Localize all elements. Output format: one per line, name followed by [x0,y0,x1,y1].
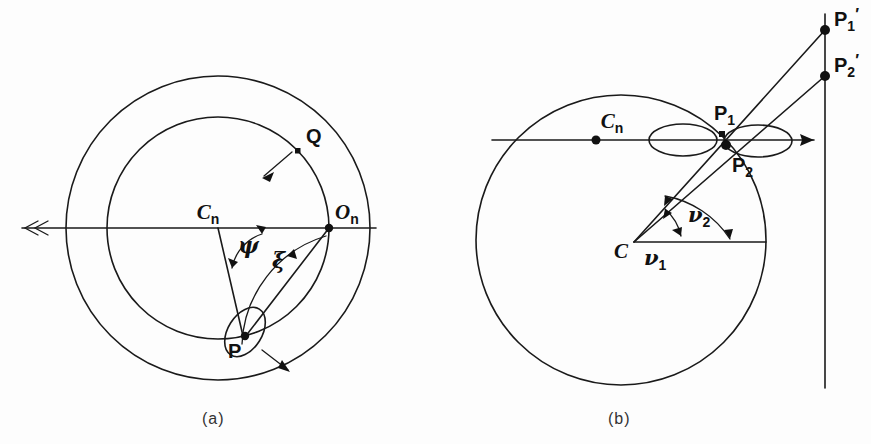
panel-a-caption: (a) [202,410,225,427]
label-p1-prime: P1′ [834,6,859,34]
ray-c-to-p1-prime [634,30,825,242]
point-p1-marker [719,131,725,137]
label-cn: Cn [197,200,220,227]
point-q-marker [295,148,301,154]
label-q: Q [306,125,322,147]
label-on: On [335,200,359,227]
panel-b-caption: (b) [608,410,631,427]
point-p-marker [241,332,249,340]
arrow-at-q-head [262,172,274,182]
label-angle-xi: ξ [272,247,286,273]
point-on-marker [325,224,333,232]
label-angle-nu1: ν1 [644,245,667,273]
arc-nu1-arrowhead-start [672,227,682,236]
label-angle-psi: ψ [238,232,260,258]
point-p2-marker [721,140,731,150]
panel-a-drawing: Cn On P Q ψ ξ (a) [0,0,436,444]
label-angle-nu2: ν2 [688,202,711,230]
arrow-at-q-shaft [264,152,292,176]
point-cn-marker [592,136,601,145]
arrow-to-screen-head [800,134,814,146]
label-p1: P1 [714,102,735,128]
label-p: P [228,340,241,362]
label-c: C [614,239,629,263]
arrow-below-p-head [278,360,290,372]
figure-container: Cn On P Q ψ ξ (a) [0,0,871,444]
point-p2-prime-marker [820,71,830,81]
panel-b-drawing: Cn C P1 P2 P1′ P2′ ν1 ν2 (b) [436,0,871,444]
label-p2-prime: P2′ [834,52,859,80]
lobe-ellipse-right [724,125,792,157]
point-p1-prime-marker [820,25,830,35]
label-cn-panel-b: Cn [601,109,624,136]
label-p2: P2 [732,154,753,180]
arc-psi-arrowhead-end [228,258,238,268]
